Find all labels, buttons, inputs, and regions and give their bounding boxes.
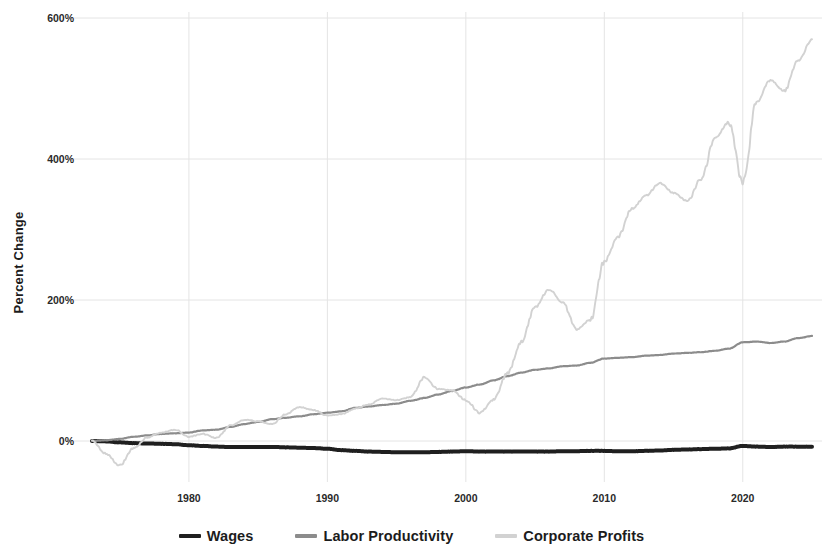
x-axis-tick-label: 2010 xyxy=(593,492,616,504)
legend-label: Corporate Profits xyxy=(523,528,644,544)
series-line-labor-productivity xyxy=(92,336,812,441)
chart-legend: WagesLabor ProductivityCorporate Profits xyxy=(0,528,823,544)
legend-swatch-icon xyxy=(179,534,201,538)
legend-swatch-icon xyxy=(495,534,517,538)
plot-area xyxy=(0,0,823,558)
legend-item-labor-productivity[interactable]: Labor Productivity xyxy=(295,528,453,544)
legend-label: Wages xyxy=(207,528,254,544)
x-axis-tick-label: 2020 xyxy=(731,492,754,504)
legend-item-wages[interactable]: Wages xyxy=(179,528,254,544)
percent-change-line-chart: Percent Change 0%200%400%600% 1980199020… xyxy=(0,0,823,558)
legend-swatch-icon xyxy=(295,534,317,538)
x-axis-tick-label: 1990 xyxy=(316,492,339,504)
legend-item-corporate-profits[interactable]: Corporate Profits xyxy=(495,528,644,544)
gridlines xyxy=(74,12,822,482)
x-axis-tick-label: 2000 xyxy=(454,492,477,504)
series-line-corporate-profits xyxy=(92,39,812,465)
series-line-wages xyxy=(92,441,812,452)
legend-label: Labor Productivity xyxy=(323,528,453,544)
series-lines xyxy=(92,39,812,465)
x-axis-tick-label: 1980 xyxy=(177,492,200,504)
